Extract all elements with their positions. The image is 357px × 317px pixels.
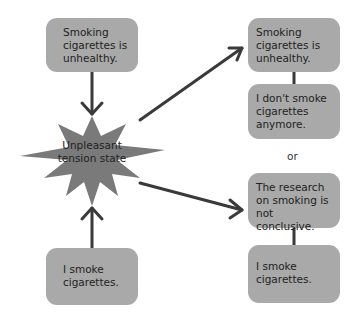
option-2-belief-box: The research on smoking is not conclusiv…: [248, 173, 340, 228]
tension-state-label: Unpleasant tension state: [52, 139, 132, 165]
arrow-to-option-2: [140, 183, 242, 210]
arrow-to-option-1: [140, 48, 242, 120]
belief-box-unhealthy: Smoking cigarettes is unhealthy.: [46, 18, 138, 72]
separator-or: or: [287, 150, 298, 162]
option-1-behavior-box: I don't smoke cigarettes anymore.: [248, 84, 340, 139]
option-1-belief-box: Smoking cigarettes is unhealthy.: [248, 18, 340, 72]
behavior-box-smoke: I smoke cigarettes.: [46, 248, 138, 305]
option-2-behavior-box: I smoke cigarettes.: [248, 245, 340, 303]
